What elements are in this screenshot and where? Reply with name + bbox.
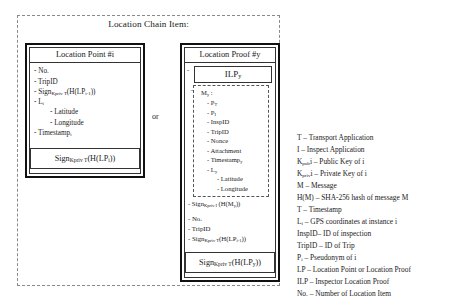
my-colon: : xyxy=(209,89,212,96)
legend-line-inspect-app: I – Inspect Application xyxy=(297,144,453,156)
my-field-longitude: - Longitude xyxy=(197,184,265,194)
my-field-nonce: - Nonce xyxy=(197,136,265,146)
prf-signature-expression: SignKpriv T(H(LPy)) xyxy=(199,258,261,267)
prf-signature-sub: Kpriv T xyxy=(214,261,232,267)
lp-signature-expression: SignKpriv T(H(LPi)) xyxy=(55,154,116,163)
my-pt-text: - P xyxy=(207,99,215,106)
my-l-sub: y xyxy=(215,169,217,174)
lp-sign-prev-sub: Kpriv T xyxy=(51,91,66,96)
location-proof-signature: SignKpriv T(H(LPy)) xyxy=(185,252,275,273)
lp-field-longitude: - Longitude xyxy=(34,118,136,128)
ilp-lead-dash: - xyxy=(187,66,189,74)
lp-field-latitude: - Latitude xyxy=(34,107,136,117)
location-point-signature: SignKpriv T(H(LPi)) xyxy=(30,148,140,169)
prf-sign-prev-arg: (H(LP xyxy=(219,235,236,242)
prf-sign-prev-text: - Sign xyxy=(188,235,204,242)
lp-timestamp-sub: i xyxy=(70,132,71,137)
legend-kpub-sub: pub xyxy=(302,161,310,166)
ilp-signature-expression: - SignKpriv I (H(My)) xyxy=(188,200,240,207)
lp-sign-prev-close: )) xyxy=(91,88,96,96)
legend-line-ilp: ILP – Inspector Location Proof xyxy=(297,276,453,288)
lp-l-sub: i xyxy=(43,101,44,106)
location-proof-card: Location Proof #y - ILPy - - MMy : - PT … xyxy=(180,43,280,282)
my-wrapper: - - MMy : - PT - PI - InspID - TripID - … xyxy=(185,84,275,199)
legend-line-gps: Li – GPS coordinates at instance i xyxy=(297,216,453,228)
lp-sign-prev-text: - Sign xyxy=(34,88,51,96)
ilp-box: ILPy xyxy=(194,66,272,83)
legend-kpriv-rest: i – Private Key of i xyxy=(310,169,366,178)
ilp-header-text: ILP xyxy=(225,69,239,79)
legend-p-rest: – Pseudonym of i xyxy=(303,253,357,262)
legend-line-pseudonym: Pi – Pseudonym of i xyxy=(297,252,453,264)
my-label: - MMy : xyxy=(197,88,265,98)
location-point-header: Location Point #i xyxy=(30,48,140,63)
my-field-pt: - PT xyxy=(197,98,265,108)
prf-sign-prev-close: )) xyxy=(242,235,247,242)
location-proof-header: Location Proof #y xyxy=(185,48,275,63)
legend-line-message: M – Message xyxy=(297,180,453,192)
lp-signature-close: )) xyxy=(110,154,115,163)
lp-field-sign-prev: - SignKpriv T(H(LPi-1)) xyxy=(34,87,136,97)
ilp-sign-text: - Sign xyxy=(188,200,204,207)
prf-sign-prev-sub: Kpriv T xyxy=(204,238,219,243)
lp-signature-text: Sign xyxy=(55,154,70,163)
lp-field-timestamp: - Timestampi xyxy=(34,128,136,138)
ilp-sign-arg: (H(M xyxy=(217,200,234,207)
lp-sign-prev-arg: (H(LP xyxy=(67,88,85,96)
prf-signature-arg: (H(LP xyxy=(232,258,253,267)
diagram-canvas: Location Chain Item: Location Point #i -… xyxy=(0,0,453,302)
my-field-attachment: - Attachment xyxy=(197,146,265,156)
legend-line-inspid: InspID– ID of inspection xyxy=(297,228,453,240)
lp-field-no: - No. xyxy=(34,66,136,76)
my-pi-sub: I xyxy=(215,111,217,116)
legend-line-public-key: Kpubi – Public Key of i xyxy=(297,156,453,168)
ilp-sign-sub: Kpriv I xyxy=(204,203,217,208)
my-lead-dash: - xyxy=(191,86,193,93)
my-field-latitude: - Latitude xyxy=(197,174,265,184)
or-separator-label: or xyxy=(152,112,159,121)
legend-kpub-rest: i – Public Key of i xyxy=(310,157,364,166)
prf-signature-close: )) xyxy=(255,258,260,267)
prf-signature-text: Sign xyxy=(199,258,214,267)
location-proof-tail-fields: - No. - TripID - SignKpriv T(H(LPi-1)) xyxy=(185,212,275,247)
lp-field-l: - Li xyxy=(34,97,136,107)
legend-line-lp: LP – Location Point or Location Proof xyxy=(297,264,453,276)
my-l-text: - L xyxy=(207,166,215,173)
location-proof-inner: Location Proof #y - ILPy - - MMy : - PT … xyxy=(184,47,276,278)
legend-line-private-key: Kprivi – Private Key of i xyxy=(297,168,453,180)
ilp-signature-row: - SignKpriv I (H(My)) xyxy=(185,199,275,212)
lp-l-text: - L xyxy=(34,98,43,106)
my-field-l: - Ly xyxy=(197,165,265,175)
my-timestamp-sub: y xyxy=(240,159,242,164)
my-field-timestamp: - Timestampy xyxy=(197,155,265,165)
legend-line-tripid: TripID – ID of Trip xyxy=(297,240,453,252)
lp-field-tripid: - TripID xyxy=(34,77,136,87)
my-timestamp-text: - Timestamp xyxy=(207,156,240,163)
my-field-inspid: - InspID xyxy=(197,117,265,127)
prf-field-sign-prev: - SignKpriv T(H(LPi-1)) xyxy=(188,234,273,244)
lp-timestamp-text: - Timestamp xyxy=(34,129,70,137)
my-field-tripid: - TripID xyxy=(197,127,265,137)
prf-field-tripid: - TripID xyxy=(188,224,273,234)
lp-signature-arg: (H(LP xyxy=(87,154,108,163)
prf-field-no: - No. xyxy=(188,214,273,224)
my-field-pi: - PI xyxy=(197,108,265,118)
legend-l-rest: – GPS coordinates at instance i xyxy=(303,217,397,226)
legend-line-timestamp: T – Timestamp xyxy=(297,204,453,216)
location-chain-item-title: Location Chain Item: xyxy=(17,19,280,29)
ilp-wrapper: - ILPy xyxy=(185,63,275,84)
my-box: - MMy : - PT - PI - InspID - TripID - No… xyxy=(193,85,269,197)
legend-line-transport-app: T – Transport Application xyxy=(297,132,453,144)
ilp-header: ILPy xyxy=(195,67,271,82)
ilp-sign-close: )) xyxy=(236,200,240,207)
my-pt-sub: T xyxy=(215,102,218,107)
legend-line-hash: H(M) – SHA-256 hash of message M xyxy=(297,192,453,204)
lp-signature-sub: Kpriv T xyxy=(70,157,88,163)
legend-line-no: No. – Number of Location Item xyxy=(297,288,453,300)
legend: T – Transport Application I – Inspect Ap… xyxy=(297,132,453,300)
my-pi-text: - P xyxy=(207,109,215,116)
ilp-header-sub: y xyxy=(238,74,241,80)
